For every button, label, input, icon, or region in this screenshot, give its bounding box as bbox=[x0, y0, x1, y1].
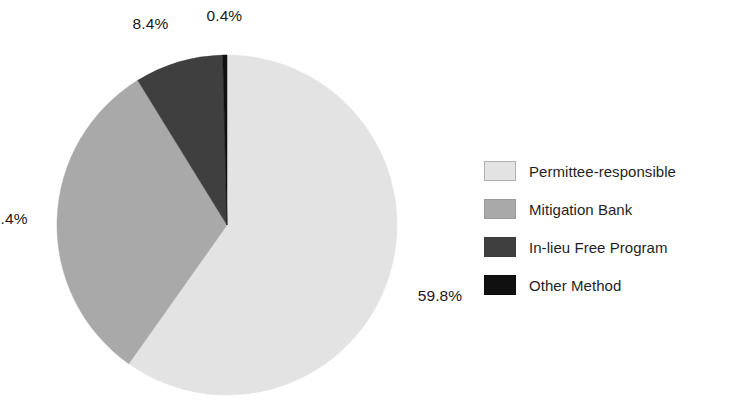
pie-chart: 59.8% 31.4% 8.4% 0.4% Permittee-responsi… bbox=[0, 0, 736, 420]
slice-label-mitigation-bank: 31.4% bbox=[0, 210, 28, 228]
legend-swatch-icon-permittee-responsible bbox=[484, 161, 516, 181]
legend-label-mitigation-bank: Mitigation Bank bbox=[529, 201, 632, 218]
legend-swatch-icon-in-lieu-free-program bbox=[484, 237, 516, 257]
pie-slice-group bbox=[57, 55, 397, 395]
chart-legend: Permittee-responsible Mitigation Bank In… bbox=[484, 161, 732, 295]
legend-item-mitigation-bank: Mitigation Bank bbox=[484, 199, 732, 219]
legend-label-permittee-responsible: Permittee-responsible bbox=[529, 163, 676, 180]
legend-item-other-method: Other Method bbox=[484, 275, 732, 295]
legend-swatch-icon-mitigation-bank bbox=[484, 199, 516, 219]
legend-label-in-lieu-free-program: In-lieu Free Program bbox=[529, 239, 668, 256]
slice-label-permittee-responsible: 59.8% bbox=[418, 287, 462, 305]
legend-item-in-lieu-free-program: In-lieu Free Program bbox=[484, 237, 732, 257]
legend-swatch-icon-other-method bbox=[484, 275, 516, 295]
slice-label-in-lieu-free-program: 8.4% bbox=[133, 15, 169, 33]
legend-item-permittee-responsible: Permittee-responsible bbox=[484, 161, 732, 181]
pie-svg bbox=[0, 0, 460, 420]
slice-label-other-method: 0.4% bbox=[207, 7, 243, 25]
pie-plot-area: 59.8% 31.4% 8.4% 0.4% bbox=[0, 0, 460, 420]
legend-label-other-method: Other Method bbox=[529, 277, 621, 294]
